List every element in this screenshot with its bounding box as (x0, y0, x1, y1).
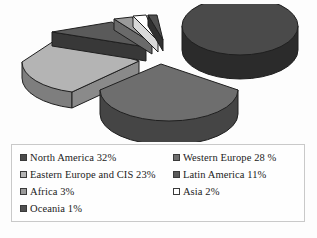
legend-swatch-africa (20, 188, 27, 195)
chart-legend: North America 32% Western Europe 28 % Ea… (11, 144, 305, 222)
legend-label-asia: Asia 2% (183, 186, 220, 198)
legend-label-western-europe: Western Europe 28 % (183, 152, 276, 164)
legend-row: Oceania 1% (12, 200, 304, 217)
legend-label-north-america: North America 32% (30, 152, 116, 164)
legend-swatch-north-america (20, 154, 27, 161)
legend-label-africa: Africa 3% (30, 186, 74, 198)
legend-swatch-latin-america (173, 171, 180, 178)
legend-item-eastern-europe-cis: Eastern Europe and CIS 23% (12, 169, 171, 181)
legend-row: Africa 3% Asia 2% (12, 183, 304, 200)
legend-swatch-western-europe (173, 154, 180, 161)
legend-row: Eastern Europe and CIS 23% Latin America… (12, 166, 304, 183)
chart-page: North America 32% Western Europe 28 % Ea… (0, 0, 317, 238)
legend-label-latin-america: Latin America 11% (183, 169, 267, 181)
legend-swatch-eastern-europe-cis (20, 171, 27, 178)
legend-swatch-oceania (20, 205, 27, 212)
legend-item-oceania: Oceania 1% (12, 203, 171, 215)
pie-chart (0, 4, 317, 142)
pie-chart-svg (0, 4, 317, 142)
legend-row: North America 32% Western Europe 28 % (12, 149, 304, 166)
legend-item-western-europe: Western Europe 28 % (171, 152, 304, 164)
legend-label-eastern-europe-cis: Eastern Europe and CIS 23% (30, 169, 156, 181)
pie-slice-north-america (182, 4, 298, 79)
legend-item-latin-america: Latin America 11% (171, 169, 304, 181)
legend-item-asia: Asia 2% (171, 186, 304, 198)
legend-item-north-america: North America 32% (12, 152, 171, 164)
legend-item-africa: Africa 3% (12, 186, 171, 198)
legend-label-oceania: Oceania 1% (30, 203, 82, 215)
legend-swatch-asia (173, 188, 180, 195)
legend-item-empty (171, 205, 304, 212)
